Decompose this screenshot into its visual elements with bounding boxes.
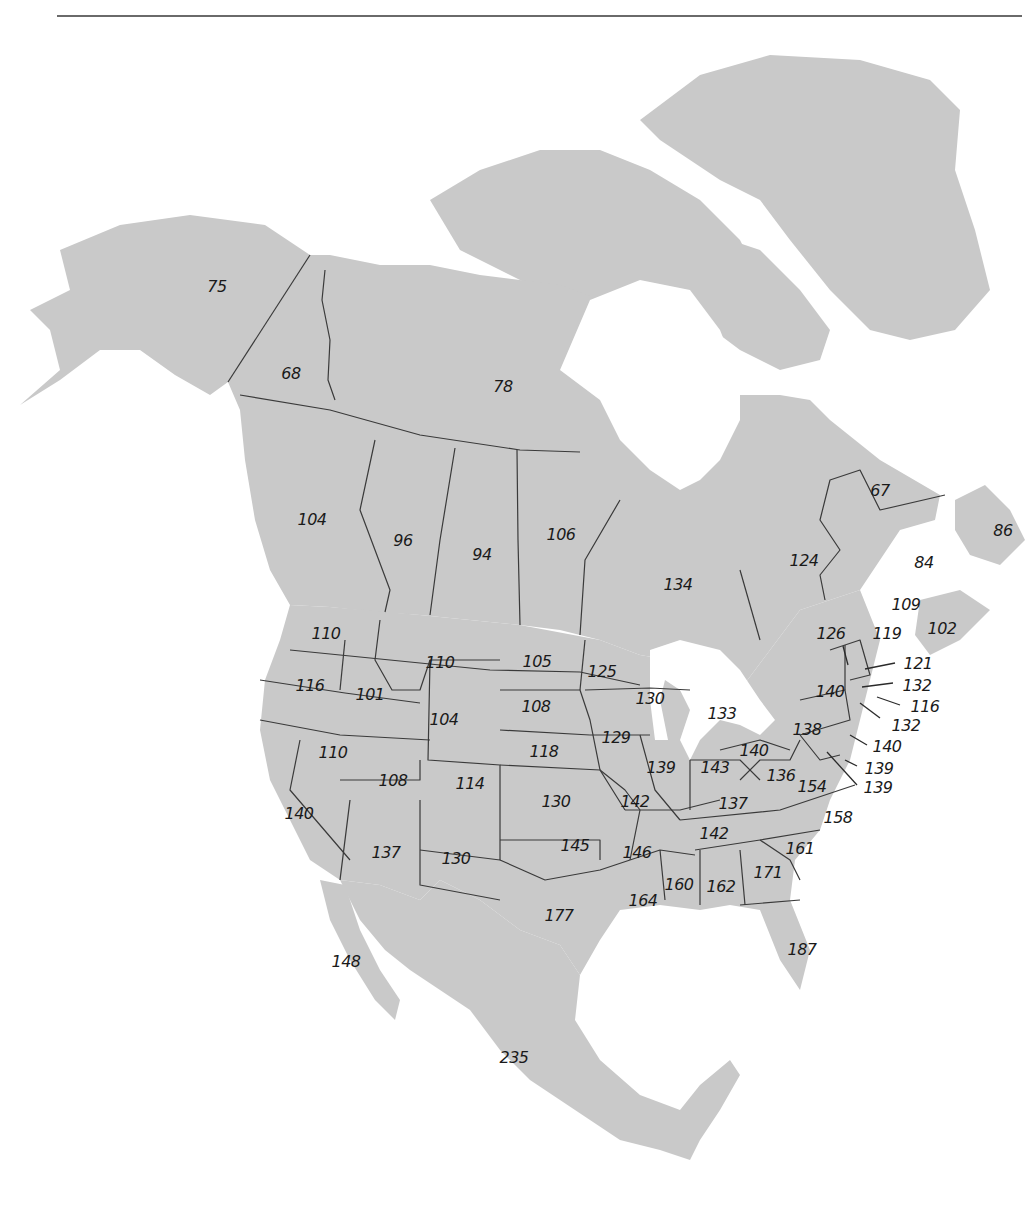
label-vermont: 126: [816, 624, 845, 643]
label-mississippi: 160: [664, 875, 693, 894]
label-washington: 110: [311, 624, 340, 643]
label-delaware: 139: [864, 759, 893, 778]
label-pennsylvania: 138: [792, 720, 821, 739]
label-ontario: 134: [663, 575, 692, 594]
label-manitoba: 106: [546, 525, 575, 544]
label-virginia: 154: [797, 777, 826, 796]
label-northwest-territories: 78: [493, 377, 512, 396]
label-new-york: 140: [815, 682, 844, 701]
label-new-mexico: 130: [441, 849, 470, 868]
label-new-brunswick: 109: [891, 595, 920, 614]
label-new-hampshire: 121: [903, 654, 932, 673]
label-new-jersey: 140: [872, 737, 901, 756]
label-baja-california: 148: [331, 952, 360, 971]
label-connecticut: 132: [891, 716, 920, 735]
label-south-carolina: 161: [785, 839, 814, 858]
label-wyoming: 104: [429, 710, 458, 729]
label-labrador: 67: [870, 481, 889, 500]
label-alabama: 162: [706, 877, 735, 896]
newfoundland-shape: [955, 485, 1025, 565]
label-oregon: 116: [295, 676, 324, 695]
label-alberta: 96: [393, 531, 412, 550]
label-illinois: 139: [646, 758, 675, 777]
label-montana: 110: [425, 653, 454, 672]
label-massachusetts: 132: [902, 676, 931, 695]
label-minnesota: 125: [587, 662, 616, 681]
label-saskatchewan: 94: [472, 545, 491, 564]
label-florida: 187: [787, 940, 816, 959]
label-prince-edward-island: 84: [914, 553, 933, 572]
label-south-dakota: 108: [521, 697, 550, 716]
label-georgia: 171: [753, 863, 782, 882]
label-oklahoma: 145: [560, 836, 589, 855]
label-iowa: 129: [601, 728, 630, 747]
label-alaska: 75: [207, 277, 226, 296]
label-texas: 177: [544, 906, 573, 925]
label-newfoundland: 86: [993, 521, 1012, 540]
label-mexico: 235: [499, 1048, 528, 1067]
label-north-carolina: 158: [823, 808, 852, 827]
label-british-columbia: 104: [297, 510, 326, 529]
label-rhode-island: 116: [910, 697, 939, 716]
north-america-map: [0, 0, 1030, 1210]
label-nebraska: 118: [529, 742, 558, 761]
label-missouri: 142: [620, 792, 649, 811]
label-nova-scotia: 102: [927, 619, 956, 638]
label-indiana: 143: [700, 758, 729, 777]
label-west-virginia: 136: [766, 766, 795, 785]
label-ohio: 140: [739, 741, 768, 760]
label-michigan: 133: [707, 704, 736, 723]
label-nevada: 110: [318, 743, 347, 762]
label-tennessee: 142: [699, 824, 728, 843]
label-louisiana: 164: [628, 891, 657, 910]
label-north-dakota: 105: [522, 652, 551, 671]
label-idaho: 101: [355, 685, 384, 704]
label-maine: 119: [872, 624, 901, 643]
label-kansas: 130: [541, 792, 570, 811]
label-quebec: 124: [789, 551, 818, 570]
label-maryland: 139: [863, 778, 892, 797]
label-kentucky: 137: [718, 794, 747, 813]
label-wisconsin: 130: [635, 689, 664, 708]
label-arizona: 137: [371, 843, 400, 862]
label-yukon: 68: [281, 364, 300, 383]
label-california: 140: [284, 804, 313, 823]
label-colorado: 114: [455, 774, 484, 793]
label-arkansas: 146: [622, 843, 651, 862]
label-utah: 108: [378, 771, 407, 790]
